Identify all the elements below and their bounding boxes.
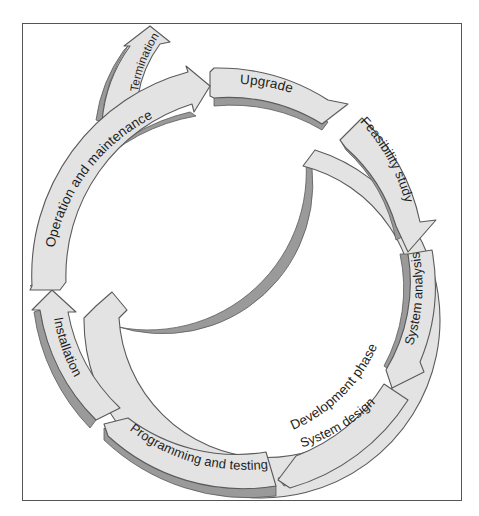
lifecycle-diagram: Development phase Upgrade Feasibility st… [0, 0, 479, 516]
programming-and-testing-arrow: Programming and testing [104, 418, 276, 498]
upgrade-arrow: Upgrade [210, 68, 348, 130]
